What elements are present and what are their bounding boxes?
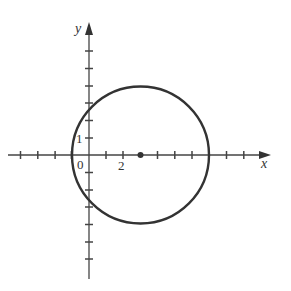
circle-graph: y x 0 2 1 <box>0 0 291 291</box>
y-axis-arrow-icon <box>85 22 93 35</box>
origin-label: 0 <box>77 157 84 172</box>
x-axis-label: x <box>260 156 268 171</box>
y-axis <box>85 22 93 279</box>
y-axis-label: y <box>73 21 82 36</box>
y-tick-label-1: 1 <box>76 131 83 146</box>
center-point <box>138 152 144 158</box>
x-tick-label-2: 2 <box>118 158 125 173</box>
